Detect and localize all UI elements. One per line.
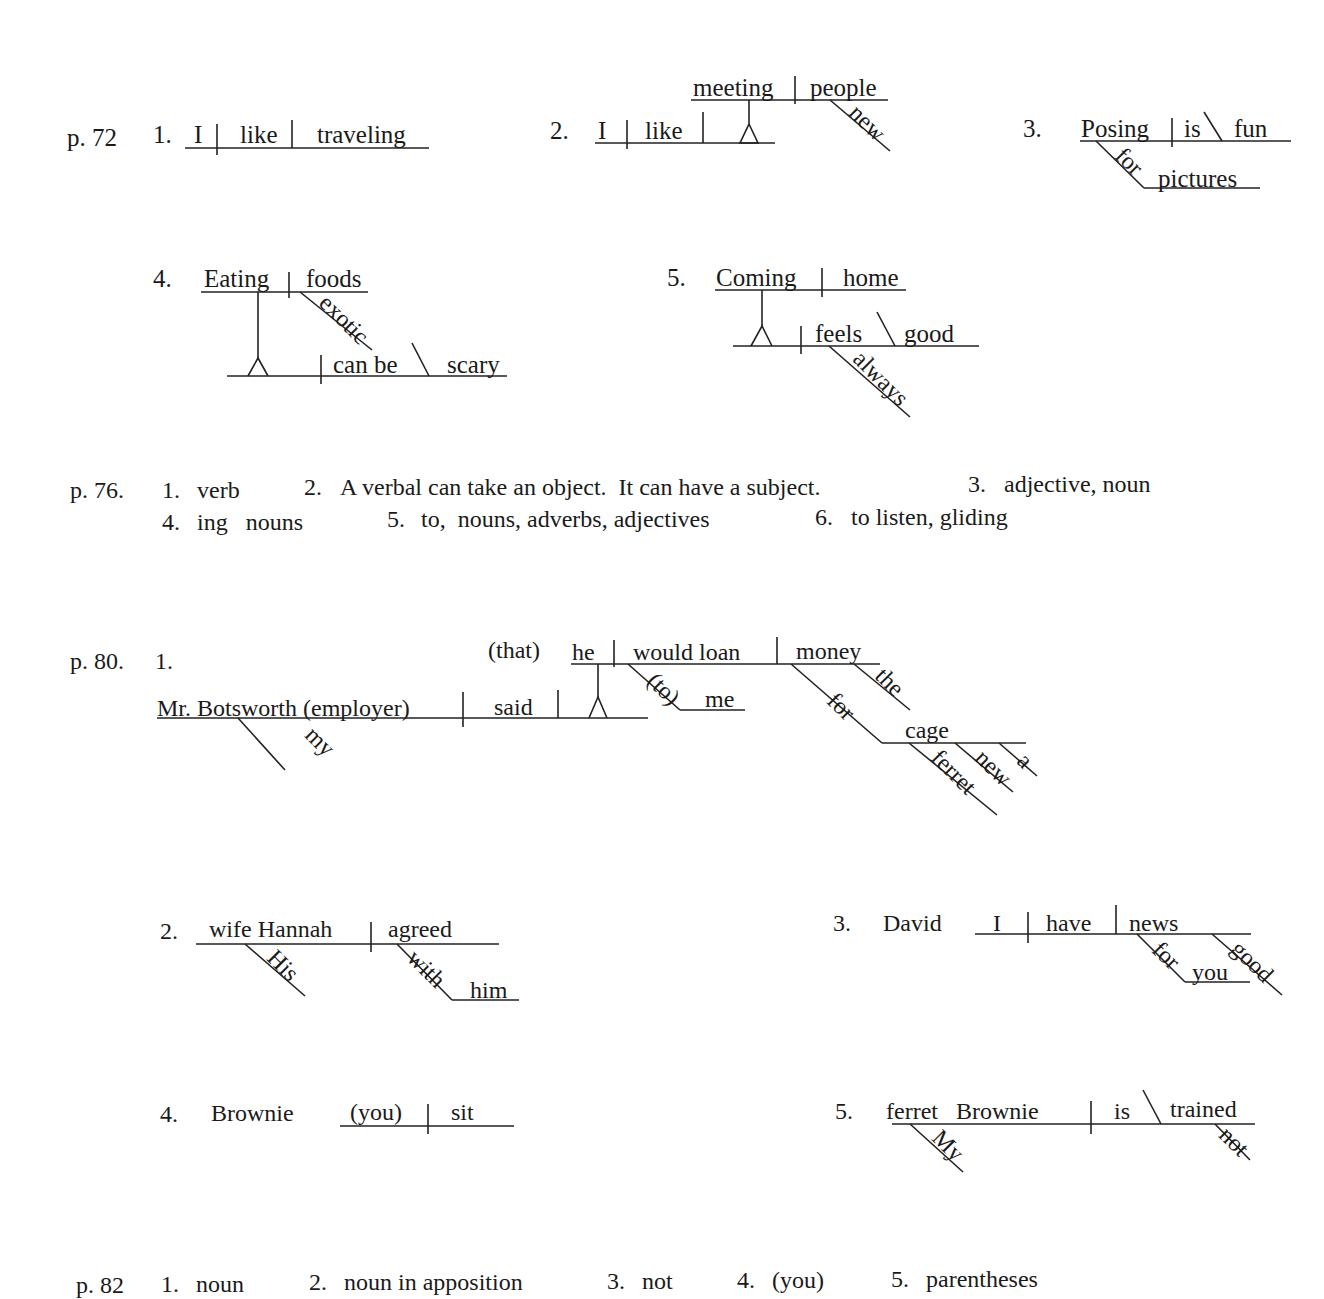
- verb-word: sit: [451, 1100, 474, 1124]
- answer-number: 1.: [162, 478, 180, 502]
- subject-word: (you): [350, 1100, 402, 1124]
- answer-text: to, nouns, adverbs, adjectives: [421, 507, 710, 531]
- clause-subject-word: he: [572, 640, 595, 664]
- item-number: 5.: [835, 1099, 853, 1123]
- gerund-object-word: people: [810, 75, 877, 100]
- answer-number: 6.: [815, 505, 833, 529]
- answer-number: 4.: [162, 510, 180, 534]
- page-label: p. 82: [76, 1273, 124, 1297]
- direct-address-word: Brownie: [211, 1101, 294, 1125]
- verb-word: is: [1114, 1099, 1130, 1123]
- clause-verb-word: would loan: [633, 640, 740, 664]
- gerund-word: Eating: [204, 266, 269, 291]
- subject-word: Mr. Botsworth (employer): [157, 696, 410, 720]
- gerund-object-word: foods: [306, 266, 362, 291]
- object-word: traveling: [317, 122, 406, 147]
- item-number: 2.: [550, 118, 569, 143]
- item-number: 2.: [160, 919, 178, 943]
- answer-number: 5.: [387, 507, 405, 531]
- verb-word: like: [240, 122, 278, 147]
- verb-word: can be: [333, 352, 398, 377]
- prep-object-word: you: [1192, 960, 1228, 984]
- subject-word: Posing: [1081, 116, 1149, 141]
- subject-word: I: [598, 118, 606, 143]
- answer-text: to listen, gliding: [851, 505, 1008, 529]
- subject-word: I: [194, 122, 202, 147]
- item-number: 4.: [160, 1102, 178, 1126]
- gerund-word: meeting: [693, 75, 774, 100]
- verb-word: said: [494, 695, 533, 719]
- page-label: p. 76.: [70, 478, 124, 502]
- gerund-object-word: home: [843, 265, 899, 290]
- verb-word: like: [645, 118, 683, 143]
- clause-intro-word: (that): [488, 638, 540, 662]
- item-number: 3.: [1023, 116, 1042, 141]
- direct-address-word: David: [883, 911, 942, 935]
- answer-text: not: [642, 1269, 673, 1293]
- verb-word: feels: [815, 321, 862, 346]
- verb-word: is: [1184, 116, 1201, 141]
- answer-text: noun: [196, 1272, 244, 1296]
- answer-number: 3.: [968, 472, 986, 496]
- item-number: 1.: [153, 122, 172, 147]
- answer-text: (you): [772, 1268, 824, 1292]
- answer-number: 2.: [309, 1270, 327, 1294]
- answer-text: ing nouns: [197, 510, 303, 534]
- prep-object-word: him: [470, 978, 507, 1002]
- answer-number: 4.: [737, 1268, 755, 1292]
- answer-number: 1.: [161, 1272, 179, 1296]
- object-word: news: [1129, 911, 1178, 935]
- complement-word: fun: [1234, 116, 1267, 141]
- answer-number: 5.: [891, 1267, 909, 1291]
- subject-word: I: [993, 911, 1001, 935]
- answer-text: verb: [197, 478, 240, 502]
- answer-text: A verbal can take an object. It can have…: [340, 475, 820, 499]
- complement-word: trained: [1170, 1097, 1237, 1121]
- answer-text: adjective, noun: [1004, 472, 1151, 496]
- prep-object-word: pictures: [1158, 166, 1237, 191]
- item-number: 1.: [155, 649, 173, 673]
- to-object-word: me: [705, 687, 734, 711]
- page-label: p. 80.: [70, 649, 124, 673]
- item-number: 5.: [667, 265, 686, 290]
- answer-number: 3.: [607, 1269, 625, 1293]
- answer-text: noun in apposition: [344, 1270, 523, 1294]
- subject-word: ferret Brownie: [886, 1099, 1039, 1123]
- gerund-word: Coming: [716, 265, 797, 290]
- verb-word: agreed: [388, 917, 452, 941]
- item-number: 4.: [153, 266, 172, 291]
- subject-word: wife Hannah: [209, 917, 332, 941]
- answer-number: 2.: [304, 475, 322, 499]
- page-label: p. 72: [67, 125, 117, 150]
- complement-word: good: [904, 321, 954, 346]
- item-number: 3.: [833, 911, 851, 935]
- for-object-word: cage: [905, 718, 949, 742]
- answer-text: parentheses: [926, 1267, 1038, 1291]
- complement-word: scary: [447, 352, 500, 377]
- clause-object-word: money: [796, 639, 861, 663]
- verb-word: have: [1046, 911, 1091, 935]
